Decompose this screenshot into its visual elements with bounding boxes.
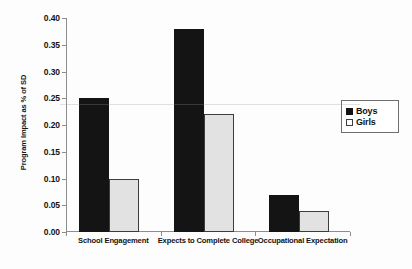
bar-chart: Program Impact as % of SD 0.000.050.100.…	[0, 0, 412, 269]
y-tick	[62, 205, 66, 206]
y-tick-label: 0.30	[44, 67, 60, 77]
y-tick	[62, 18, 66, 19]
bar-girls-0	[109, 179, 139, 233]
y-tick-label: 0.20	[44, 120, 60, 130]
y-tick-label: 0.25	[44, 93, 60, 103]
legend-swatch-boys-icon	[346, 108, 353, 115]
x-axis-category-labels: School EngagementExpects to Complete Col…	[66, 236, 350, 266]
legend-swatch-girls-icon	[346, 119, 353, 126]
bar-girls-1	[204, 114, 234, 232]
y-tick-label: 0.15	[44, 147, 60, 157]
legend-item-girls: Girls	[346, 117, 395, 127]
y-axis-title: Program Impact as % of SD	[19, 38, 28, 208]
y-tick-label: 0.05	[44, 200, 60, 210]
bar-boys-0	[79, 98, 109, 232]
y-axis-line	[66, 18, 67, 232]
chart-legend: Boys Girls	[341, 100, 399, 133]
bar-boys-2	[269, 195, 299, 232]
y-tick	[62, 152, 66, 153]
legend-label-girls: Girls	[356, 117, 376, 127]
bar-girls-2	[299, 211, 329, 232]
y-tick-label: 0.35	[44, 40, 60, 50]
y-tick	[62, 45, 66, 46]
legend-label-boys: Boys	[356, 106, 377, 116]
y-tick	[62, 179, 66, 180]
plot-area: 0.000.050.100.150.200.250.300.350.40	[66, 18, 350, 232]
y-tick-label: 0.40	[44, 13, 60, 23]
y-tick	[62, 98, 66, 99]
bar-boys-1	[174, 29, 204, 232]
y-tick	[62, 125, 66, 126]
y-tick	[62, 72, 66, 73]
y-tick-label: 0.10	[44, 174, 60, 184]
legend-item-boys: Boys	[346, 106, 395, 116]
x-category-label: Occupational Expectation	[247, 236, 358, 246]
